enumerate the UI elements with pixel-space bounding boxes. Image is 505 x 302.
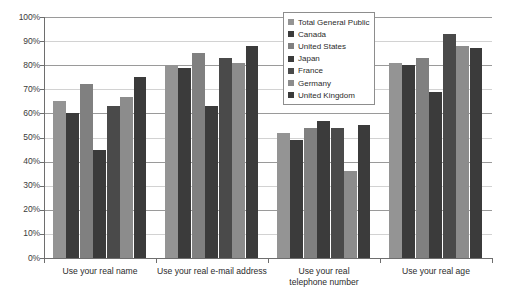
x-axis-category-label: Use your real age (380, 266, 492, 277)
x-axis-tick-mark (268, 258, 269, 263)
y-axis-tick-label: 60% (6, 109, 40, 117)
bar (331, 128, 344, 258)
y-axis-tick-label: 90% (6, 37, 40, 45)
bar (80, 84, 93, 258)
legend-item-label: United States (298, 42, 346, 51)
x-axis-tick-mark (44, 258, 45, 263)
bar (443, 34, 456, 258)
legend-item[interactable]: United States (288, 40, 371, 52)
bar (246, 46, 259, 258)
legend-item-label: Germany (298, 79, 331, 88)
legend-item-label: Canada (298, 30, 326, 39)
y-axis-line (44, 17, 45, 259)
legend-swatch-icon (288, 43, 294, 49)
legend-item[interactable]: France (288, 65, 371, 77)
bar (134, 77, 147, 258)
legend-item[interactable]: Canada (288, 28, 371, 40)
x-axis-tick-mark (156, 258, 157, 263)
x-axis-tick-mark (380, 258, 381, 263)
legend-item-label: France (298, 66, 323, 75)
bar (107, 106, 120, 258)
bar (429, 92, 442, 258)
bar-group (44, 17, 156, 258)
bar (219, 58, 232, 258)
bar (120, 97, 133, 258)
y-axis-tick-label: 80% (6, 61, 40, 69)
bar (470, 48, 483, 258)
bar-group (156, 17, 268, 258)
bar (277, 133, 290, 258)
legend-item-label: United Kingdom (298, 91, 355, 100)
legend-swatch-icon (288, 19, 294, 25)
x-axis-tick-mark (492, 258, 493, 263)
category-label-line: Use your real name (44, 266, 156, 277)
bar (456, 46, 469, 258)
chart-container: 100%90%80%70%60%50%40%30%20%10%0% Use yo… (0, 0, 505, 302)
legend-item-label: Japan (298, 54, 320, 63)
legend-item-label: Total General Public (298, 18, 370, 27)
y-axis-tick-label: 0% (6, 254, 40, 262)
bar (317, 121, 330, 258)
category-label-line: Use your real e-mail address (156, 266, 268, 277)
legend-swatch-icon (288, 56, 294, 62)
plot-area (44, 17, 492, 258)
chart-legend: Total General PublicCanadaUnited StatesJ… (283, 12, 375, 105)
bar (232, 63, 245, 258)
bar (205, 106, 218, 258)
y-axis-tick-label: 10% (6, 229, 40, 237)
legend-swatch-icon (288, 80, 294, 86)
x-axis-category-label: Use your realtelephone number (268, 266, 380, 288)
y-axis-tick-label: 50% (6, 133, 40, 141)
y-axis-tick-label: 20% (6, 205, 40, 213)
category-label-line: Use your real age (380, 266, 492, 277)
bar (402, 65, 415, 258)
legend-item[interactable]: Japan (288, 53, 371, 65)
category-label-line: telephone number (268, 277, 380, 288)
legend-swatch-icon (288, 31, 294, 37)
bar (93, 150, 106, 258)
legend-item[interactable]: United Kingdom (288, 89, 371, 101)
bar (192, 53, 205, 258)
category-label-line: Use your real (268, 266, 380, 277)
bar (178, 68, 191, 258)
legend-swatch-icon (288, 92, 294, 98)
bar (358, 125, 371, 258)
y-axis-tick-label: 100% (6, 13, 40, 21)
legend-item[interactable]: Total General Public (288, 16, 371, 28)
bar (290, 140, 303, 258)
bar (53, 101, 66, 258)
bar (344, 171, 357, 258)
legend-swatch-icon (288, 68, 294, 74)
legend-item[interactable]: Germany (288, 77, 371, 89)
x-axis-category-label: Use your real e-mail address (156, 266, 268, 277)
bar (66, 113, 79, 258)
y-axis-tick-label: 70% (6, 85, 40, 93)
x-axis-category-label: Use your real name (44, 266, 156, 277)
bar (165, 65, 178, 258)
y-axis-tick-label: 40% (6, 157, 40, 165)
bar (389, 63, 402, 258)
bar (304, 128, 317, 258)
bar-group (380, 17, 492, 258)
y-axis-tick-label: 30% (6, 181, 40, 189)
bar (416, 58, 429, 258)
y-axis-tick-labels: 100%90%80%70%60%50%40%30%20%10%0% (0, 0, 40, 302)
